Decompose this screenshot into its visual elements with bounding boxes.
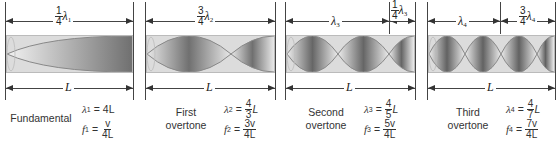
- right-boundary-line: [133, 2, 134, 100]
- length-label: L: [204, 80, 215, 95]
- arrow-left-icon: [428, 85, 435, 91]
- panel-second-overtone: λ3 14λ3 L Second overtone λ3: [280, 0, 420, 144]
- formulas: λ1 = 4L f1 = v4L: [82, 99, 115, 139]
- wavelength-formula: λ3 = 45L: [364, 99, 398, 119]
- arrow-left-icon: [428, 18, 435, 24]
- right-boundary-line: [275, 2, 276, 100]
- mode-name: Fundamental: [6, 112, 76, 125]
- arrow-right-icon: [382, 18, 389, 24]
- arrow-right-icon: [548, 18, 555, 24]
- formulas: λ4 = 47L f4 = 7v4L: [506, 99, 540, 139]
- standing-wave-diagram: [429, 36, 554, 72]
- frequency-formula: f3 = 5v4L: [364, 119, 398, 139]
- mode-name: First overtone: [156, 106, 216, 132]
- length-label: L: [485, 80, 496, 95]
- wavelength-formula: λ4 = 47L: [506, 99, 540, 119]
- arrow-left-icon: [501, 18, 508, 24]
- arrow-right-icon: [126, 18, 133, 24]
- arrow-left-icon: [146, 18, 153, 24]
- wavelength-formula: λ1 = 4L: [82, 99, 115, 119]
- top-dimension-arrow-quarter: [390, 21, 415, 22]
- tube-third-overtone: [428, 35, 555, 73]
- arrow-left-icon: [286, 85, 293, 91]
- right-boundary-line: [415, 2, 416, 100]
- tube-fundamental: [6, 35, 133, 73]
- standing-wave-diagram: [147, 36, 274, 72]
- formulas: λ3 = 45L f3 = 5v4L: [364, 99, 398, 139]
- tube-second-overtone: [286, 35, 415, 73]
- standing-wave-diagram: [7, 36, 132, 72]
- arrow-left-icon: [146, 85, 153, 91]
- standing-wave-diagram: [287, 36, 414, 72]
- top-dimension-label-wavelength: λ3: [329, 13, 342, 29]
- panel-fundamental: 14λ1 L Fundamental λ1 = 4L f: [0, 0, 140, 144]
- arrow-right-icon: [408, 85, 415, 91]
- mode-name: Third overtone: [438, 106, 498, 132]
- wavelength-formula: λ2 = 43L: [224, 99, 258, 119]
- arrow-right-icon: [548, 85, 555, 91]
- top-dimension-label-quarter: 14λ3: [391, 0, 407, 21]
- arrow-left-icon: [6, 85, 13, 91]
- arrow-left-icon: [6, 18, 13, 24]
- mode-name: Second overtone: [296, 106, 356, 132]
- tube-first-overtone: [146, 35, 275, 73]
- right-boundary-line: [555, 2, 556, 100]
- frequency-formula: f4 = 7v4L: [506, 119, 540, 139]
- top-dimension-label-three-quarter: 34λ4: [517, 6, 537, 27]
- length-label: L: [344, 80, 355, 95]
- frequency-formula: f2 = 3v4L: [224, 119, 258, 139]
- length-label: L: [63, 80, 74, 95]
- panel-third-overtone: λ4 34λ4 L Third overtone λ: [420, 0, 558, 144]
- arrow-right-icon: [126, 85, 133, 91]
- panel-first-overtone: 34λ2 L First overtone: [140, 0, 280, 144]
- arrow-right-icon: [268, 85, 275, 91]
- top-dimension-label-wavelength: λ4: [456, 13, 469, 29]
- arrow-right-icon: [408, 18, 415, 24]
- top-dimension-label: 34λ2: [195, 6, 215, 27]
- arrow-right-icon: [268, 18, 275, 24]
- arrow-left-icon: [286, 18, 293, 24]
- formulas: λ2 = 43L f2 = 3v4L: [224, 99, 258, 139]
- arrow-right-icon: [493, 18, 500, 24]
- frequency-formula: f1 = v4L: [82, 119, 115, 139]
- top-dimension-label: 14λ1: [53, 6, 73, 27]
